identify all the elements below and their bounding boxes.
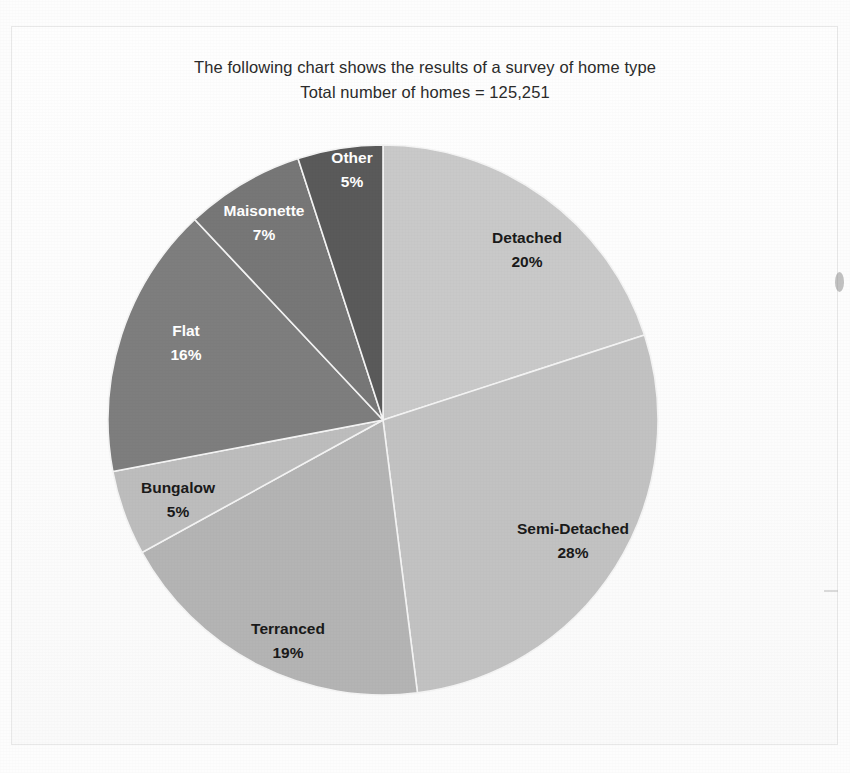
- pie-label-maisonette: Maisonette: [224, 202, 305, 219]
- pie-value-flat: 16%: [170, 346, 201, 363]
- pie-chart-svg: Detached20%Semi-Detached28%Terranced19%B…: [0, 0, 850, 773]
- pie-value-detached: 20%: [511, 253, 542, 270]
- pie-value-maisonette: 7%: [253, 226, 276, 243]
- pie-chart: Detached20%Semi-Detached28%Terranced19%B…: [0, 0, 850, 773]
- scan-artifact-mark: [835, 272, 844, 292]
- pie-label-flat: Flat: [172, 322, 200, 339]
- pie-label-terranced: Terranced: [251, 620, 325, 637]
- pie-label-other: Other: [331, 149, 372, 166]
- pie-label-detached: Detached: [492, 229, 562, 246]
- pie-value-bungalow: 5%: [167, 503, 190, 520]
- pie-value-semi-detached: 28%: [557, 544, 588, 561]
- pie-slice-group: [108, 145, 658, 695]
- pie-label-semi-detached: Semi-Detached: [517, 520, 629, 537]
- pie-label-bungalow: Bungalow: [141, 479, 216, 496]
- scan-artifact-line: [824, 590, 838, 592]
- pie-value-other: 5%: [341, 173, 364, 190]
- pie-value-terranced: 19%: [272, 644, 303, 661]
